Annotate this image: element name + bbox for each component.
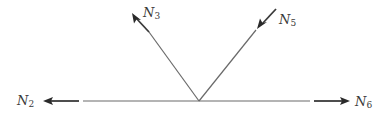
label-n3: N3 — [143, 6, 160, 21]
right-diagonal-member — [199, 30, 256, 101]
label-n2: N2 — [17, 94, 34, 109]
force-arrow-n5 — [257, 9, 276, 29]
force-arrow-n6 — [314, 97, 350, 105]
label-n5: N5 — [279, 13, 296, 28]
left-diagonal-member — [149, 32, 199, 101]
force-diagram — [0, 0, 390, 121]
force-arrow-n2 — [43, 97, 79, 105]
label-n6: N6 — [355, 95, 372, 110]
